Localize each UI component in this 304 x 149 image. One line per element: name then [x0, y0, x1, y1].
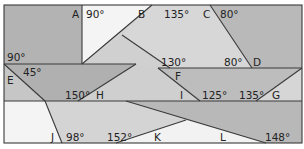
label-e: E	[7, 74, 14, 86]
label-d: D	[253, 56, 261, 68]
label-j: J	[50, 131, 54, 143]
label-l: L	[220, 131, 226, 143]
label-a: A	[72, 8, 80, 20]
geometry-diagram: A B C D E F G H I J K L 90° 135° 80° 90°…	[0, 0, 304, 149]
angle-l: 148°	[265, 131, 290, 143]
angle-g: 135°	[239, 89, 264, 101]
angle-k: 152°	[107, 131, 132, 143]
label-h: H	[96, 89, 104, 101]
angle-i: 125°	[202, 89, 227, 101]
label-g: G	[272, 89, 280, 101]
angle-e: 45°	[23, 66, 42, 78]
angle-f: 130°	[161, 56, 186, 68]
angle-a: 90°	[86, 8, 105, 20]
label-f: F	[175, 70, 181, 82]
label-i: I	[180, 89, 183, 101]
angle-c: 80°	[220, 8, 239, 20]
label-b: B	[138, 8, 145, 20]
angle-b: 135°	[164, 8, 189, 20]
label-c: C	[203, 8, 210, 20]
angle-left: 90°	[7, 51, 26, 63]
angle-j: 98°	[66, 131, 85, 143]
label-k: K	[154, 131, 162, 143]
angle-h: 150°	[65, 89, 90, 101]
angle-d: 80°	[224, 56, 243, 68]
